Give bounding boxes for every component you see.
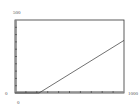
plot-frame [15,20,124,93]
data-line [15,40,124,93]
axis-ticks [15,27,113,93]
line-chart [0,0,139,108]
